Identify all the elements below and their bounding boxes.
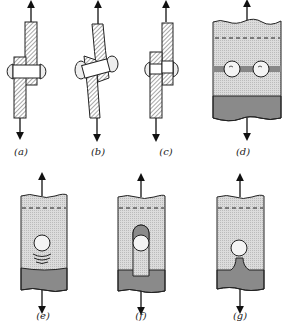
diagram-canvas xyxy=(0,0,285,334)
panel-a xyxy=(7,4,46,136)
panel-d xyxy=(213,3,281,137)
panel-c xyxy=(145,4,178,138)
panel-label-f: (f) xyxy=(135,310,147,321)
panel-f xyxy=(118,177,165,311)
panel-label-g: (g) xyxy=(233,310,247,321)
panel-label-a: (a) xyxy=(14,146,28,157)
panel-b xyxy=(75,4,118,138)
panel-label-c: (c) xyxy=(159,146,172,157)
panel-label-b: (b) xyxy=(91,146,105,157)
figure: (a) (b) (c) (d) (e) (f) (g) xyxy=(0,0,285,334)
panel-e xyxy=(21,176,67,310)
panel-g xyxy=(217,177,264,310)
panel-label-e: (e) xyxy=(36,310,50,321)
panel-label-d: (d) xyxy=(236,146,250,157)
